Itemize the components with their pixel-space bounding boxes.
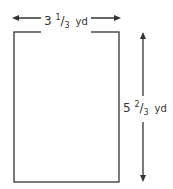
height-numerator: 2 xyxy=(134,100,139,109)
height-label: 5 2/3 yd xyxy=(123,96,167,122)
width-whole: 3 xyxy=(44,14,52,28)
width-numerator: 1 xyxy=(55,13,60,22)
height-denominator: 3 xyxy=(144,108,149,117)
rectangle xyxy=(14,32,119,182)
width-label: 3 1/3 yd xyxy=(41,11,91,33)
height-unit: yd xyxy=(155,103,167,114)
width-unit: yd xyxy=(76,16,88,27)
width-denominator: 3 xyxy=(65,21,70,30)
height-whole: 5 xyxy=(123,101,131,115)
